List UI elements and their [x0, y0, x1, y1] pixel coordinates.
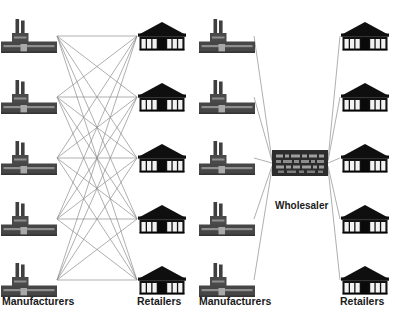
retailer-node: [138, 144, 186, 173]
retailer-node: [138, 22, 186, 51]
retailer-node: [138, 83, 186, 112]
retailer-node: [341, 266, 389, 295]
left-panel-retailers-label: Retailers: [137, 295, 182, 307]
mesh-edge-group: [57, 36, 137, 280]
manufacturer-node: [1, 80, 57, 114]
manufacturer-node: [199, 263, 255, 297]
left-panel-manufacturers-label: Manufacturers: [2, 295, 75, 307]
panel-wholesaler-network: Wholesaler Manufacturers Retailers: [199, 19, 389, 307]
retailer-node: [341, 205, 389, 234]
manufacturer-node: [1, 263, 57, 297]
manufacturer-node: [1, 202, 57, 236]
manufacturer-node: [199, 80, 255, 114]
right-panel-retailers-label: Retailers: [340, 295, 385, 307]
manufacturer-node: [199, 141, 255, 175]
manufacturer-node: [1, 141, 57, 175]
manufacturer-node: [199, 202, 255, 236]
right-panel-manufacturers-label: Manufacturers: [199, 295, 272, 307]
wholesaler-node: [272, 150, 328, 176]
manufacturer-node: [1, 19, 57, 53]
panel-direct-network: Manufacturers Retailers: [1, 19, 186, 307]
retailer-node: [138, 266, 186, 295]
retailer-node: [341, 144, 389, 173]
retailer-node: [341, 83, 389, 112]
wholesaler-label: Wholesaler: [275, 200, 328, 211]
retailer-node: [138, 205, 186, 234]
supply-chain-diagram: Manufacturers Retailers: [0, 0, 395, 312]
manufacturer-node: [199, 19, 255, 53]
retailer-node: [341, 22, 389, 51]
